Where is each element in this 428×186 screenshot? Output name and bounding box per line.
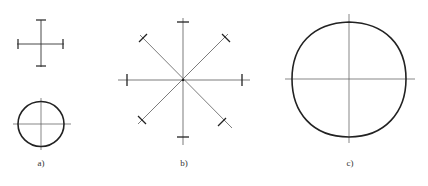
panel-a-label: a) [38,158,45,168]
diagram-svg [0,0,428,186]
panel-b-label: b) [180,158,188,168]
panel-c-circle [285,14,415,143]
panel-a-circle [13,98,71,150]
panel-a-cross [17,20,64,67]
panel-c-label: c) [347,158,354,168]
panel-b-star [118,18,250,145]
figure-canvas: a) b) c) [0,0,428,186]
